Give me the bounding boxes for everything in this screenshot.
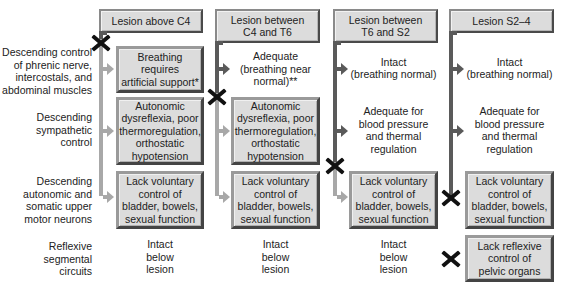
effect-box: Lack voluntary control of bladder, bowel… <box>349 171 438 229</box>
arrow-right-icon <box>107 63 114 75</box>
effect-text: Intact below lesion <box>231 236 320 278</box>
column-header: Lesion between C4 and T6 <box>215 9 320 43</box>
arrow-right-icon <box>107 191 114 203</box>
effect-text: Intact (breathing normal) <box>349 50 438 86</box>
lesioned-pathway-line <box>215 93 219 196</box>
row-label-phrenic: Descending control of phrenic nerve, int… <box>2 46 92 96</box>
row-label-upper-motor: Descending autonomic and somatic upper m… <box>23 175 92 225</box>
effect-box: Autonomic dysreflexia, poor thermoregula… <box>116 97 204 165</box>
arrow-right-icon <box>457 125 464 137</box>
column-header: Lesion above C4 <box>99 9 203 33</box>
lesion-x-icon <box>92 34 110 52</box>
lesion-x-icon <box>442 250 460 268</box>
effect-text: Adequate for blood pressure and thermal … <box>465 104 554 156</box>
arrow-right-icon <box>107 125 114 137</box>
effect-text: Adequate for blood pressure and thermal … <box>349 104 438 156</box>
row-label-sympathetic: Descending sympathetic control <box>36 111 92 149</box>
lesion-x-icon <box>326 157 344 175</box>
intact-pathway-line <box>333 41 337 162</box>
arrow-right-icon <box>341 191 348 203</box>
effect-box: Lack voluntary control of bladder, bowel… <box>465 171 554 229</box>
effect-box: Lack reflexive control of pelvic organs <box>465 235 554 282</box>
arrow-right-icon <box>223 63 230 75</box>
column-header: Lesion S2–4 <box>449 9 554 33</box>
effect-text: Intact (breathing normal) <box>465 50 554 86</box>
arrow-right-icon <box>457 63 464 75</box>
arrow-right-icon <box>223 125 230 137</box>
effect-box: Autonomic dysreflexia, poor thermoregula… <box>231 97 320 165</box>
effect-text: Adequate (breathing near normal)** <box>231 48 320 90</box>
arrow-right-icon <box>223 191 230 203</box>
lesioned-pathway-line <box>99 39 103 196</box>
arrow-right-icon <box>341 125 348 137</box>
lesion-x-icon <box>208 88 226 106</box>
column-header: Lesion between T6 and S2 <box>333 9 438 43</box>
arrow-right-icon <box>341 63 348 75</box>
row-label-reflexive: Reflexive segmental circuits <box>44 240 92 278</box>
effect-text: Intact below lesion <box>349 236 438 278</box>
intact-pathway-line <box>449 31 453 196</box>
effect-text: Intact below lesion <box>116 236 204 278</box>
effect-box: Lack voluntary control of bladder, bowel… <box>231 171 320 229</box>
effect-box: Breathing requires artificial support* <box>116 46 204 93</box>
effect-box: Lack voluntary control of bladder, bowel… <box>116 171 204 229</box>
lesion-x-icon <box>442 189 460 207</box>
